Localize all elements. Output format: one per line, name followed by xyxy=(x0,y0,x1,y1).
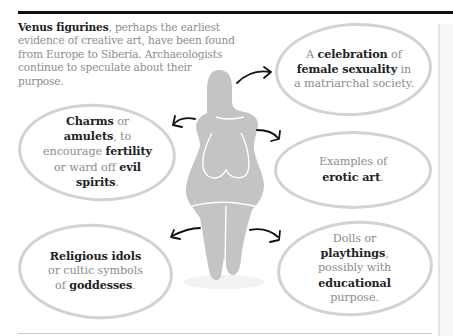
venus-figurine-icon xyxy=(184,70,264,289)
text-fragment: A xyxy=(306,48,317,61)
bold-term: erotic art xyxy=(322,170,380,184)
text-fragment: , to xyxy=(113,131,131,144)
text-fragment: or xyxy=(113,115,128,128)
bold-term: playthings xyxy=(321,246,386,260)
arrow-to-dolls-icon xyxy=(250,229,280,242)
bold-term: Charms xyxy=(65,114,113,128)
text-fragment: of xyxy=(387,48,401,61)
text-fragment: . xyxy=(132,280,135,293)
text-fragment: or ward off xyxy=(53,161,118,174)
theory-text-religious-idols: Religious idols or cultic symbols of god… xyxy=(48,249,143,294)
text-fragment: or cultic symbols xyxy=(48,264,143,277)
bottom-rule xyxy=(18,333,432,334)
theory-text-charms: Charms or amulets, to encourage fertilit… xyxy=(43,114,152,190)
text-fragment: encourage xyxy=(43,146,105,159)
text-fragment: . xyxy=(380,171,383,184)
text-fragment: . xyxy=(115,176,118,189)
bold-term: fertility xyxy=(105,145,152,159)
text-fragment: Dolls or xyxy=(333,232,376,245)
text-fragment: of xyxy=(55,280,69,293)
bold-term: Religious idols xyxy=(50,249,141,263)
theory-bubble-erotic-art: Examples of erotic art. xyxy=(274,131,432,209)
bold-term: amulets xyxy=(63,130,112,144)
bold-term: evil xyxy=(119,160,141,174)
text-fragment: possibly with xyxy=(318,261,391,274)
text-fragment: , xyxy=(386,247,389,260)
theory-text-dolls: Dolls or playthings, possibly with educa… xyxy=(318,232,391,305)
bold-term: spirits xyxy=(76,175,115,189)
arrow-to-celebration-icon xyxy=(237,67,271,83)
bold-term: female sexuality xyxy=(296,62,396,76)
theory-text-celebration: A celebration of female sexuality in a m… xyxy=(294,47,414,92)
text-fragment: a matriarchal society. xyxy=(294,78,414,91)
theory-text-erotic-art: Examples of erotic art. xyxy=(319,155,387,184)
bold-term: celebration xyxy=(317,47,387,61)
bold-term: educational xyxy=(319,276,392,290)
text-fragment: Examples of xyxy=(319,155,387,168)
text-fragment: in xyxy=(397,63,411,76)
bold-term: goddesses xyxy=(69,279,132,293)
text-fragment: purpose. xyxy=(331,291,380,304)
arrow-to-charms-icon xyxy=(173,116,195,127)
arrow-to-erotic-art-icon xyxy=(257,130,280,141)
arrow-to-religious-idols-icon xyxy=(171,228,200,239)
